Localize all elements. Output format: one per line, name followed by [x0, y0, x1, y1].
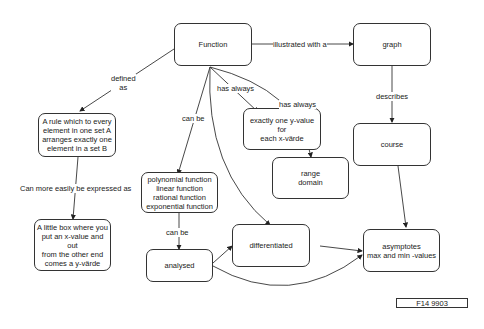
node-function: Function: [174, 23, 252, 66]
label-defined-as: defined as: [111, 74, 136, 92]
node-range-domain: range domain: [272, 157, 349, 199]
node-course: course: [353, 123, 431, 166]
reference-code: F14 9903: [396, 298, 468, 308]
node-asymptotes: asymptotes max and min -values: [363, 229, 440, 272]
node-rule: A rule which to every element in one set…: [38, 113, 116, 157]
label-can-be-2: can be: [166, 228, 189, 237]
label-describes: describes: [376, 92, 408, 101]
node-little-box: A little box where you put an x-value an…: [34, 219, 111, 271]
label-can-be-1: can be: [182, 114, 205, 123]
node-graph: graph: [353, 23, 431, 66]
node-function-types: polynomial function linear function rati…: [141, 172, 218, 213]
label-has-always-1: has always: [217, 84, 254, 93]
node-exactly-one: exactly one y-value for each x-värde: [243, 108, 321, 150]
label-expressed: Can more easily be expressed as: [20, 184, 131, 193]
label-has-always-2: has always: [279, 100, 316, 109]
label-illustrated: illustrated with a: [273, 40, 327, 49]
node-analysed: analysed: [146, 249, 213, 282]
node-differentiated: differentiated: [232, 224, 310, 267]
